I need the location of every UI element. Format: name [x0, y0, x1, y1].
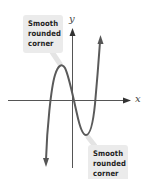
callout-line: corner: [28, 39, 58, 49]
curve-bottom-arrow-icon: [43, 158, 49, 167]
y-axis-label: y: [69, 13, 75, 24]
callout-line: Smooth: [93, 149, 123, 159]
bottom-callout: Smooth rounded corner: [88, 145, 128, 179]
curve-top-arrow-icon: [98, 35, 104, 44]
callout-line: rounded: [28, 29, 58, 39]
y-axis-arrow-icon: [70, 28, 76, 36]
callout-line: Smooth: [28, 19, 58, 29]
x-axis-arrow-icon: [123, 98, 131, 104]
callout-line: corner: [93, 169, 123, 179]
top-callout: Smooth rounded corner: [23, 15, 63, 53]
top-callout-pointer: [52, 52, 60, 64]
x-axis-label: x: [135, 93, 141, 104]
callout-line: rounded: [93, 159, 123, 169]
